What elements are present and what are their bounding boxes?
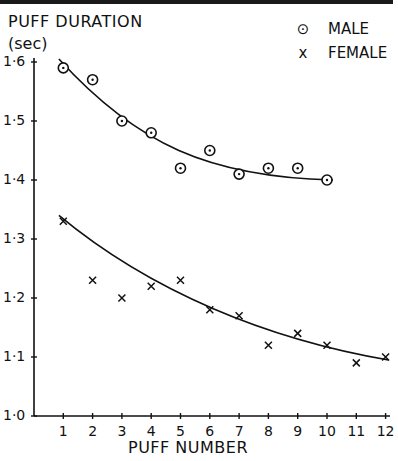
y-tick-label: 1·1 [3,348,29,364]
male-data-point-center [62,67,64,69]
x-tick-label: 6 [198,423,222,439]
x-tick-label: 8 [256,423,280,439]
male-fit-curve [59,59,333,180]
male-data-point-center [238,173,240,175]
y-tick-label: 1·4 [3,171,29,187]
female-data-point [148,283,155,290]
y-tick-label: 1·2 [3,289,29,305]
female-data-point [353,359,360,366]
female-data-point [265,342,272,349]
x-tick-label: 1 [51,423,75,439]
female-data-point [89,277,96,284]
female-data-point [294,330,301,337]
male-data-point-center [121,120,123,122]
male-data-point-center [209,149,211,151]
female-data-point [177,277,184,284]
y-tick-label: 1·0 [3,407,29,423]
male-data-point-center [297,167,299,169]
y-tick-label: 1·5 [3,112,29,128]
y-tick-label: 1·6 [3,53,29,69]
female-data-point [236,312,243,319]
female-data-point [118,295,125,302]
x-tick-label: 7 [227,423,251,439]
male-data-point-center [91,79,93,81]
x-tick-label: 3 [110,423,134,439]
y-tick-label: 1·3 [3,230,29,246]
male-data-point-center [267,167,269,169]
x-tick-label: 12 [374,423,398,439]
female-fit-curve [59,215,389,360]
x-tick-label: 5 [169,423,193,439]
x-tick-label: 11 [344,423,368,439]
x-tick-label: 10 [315,423,339,439]
x-tick-label: 4 [139,423,163,439]
x-axis-label: PUFF NUMBER [128,438,248,457]
x-tick-label: 2 [81,423,105,439]
male-data-point-center [326,179,328,181]
x-tick-label: 9 [286,423,310,439]
male-data-point-center [150,132,152,134]
male-data-point-center [179,167,181,169]
